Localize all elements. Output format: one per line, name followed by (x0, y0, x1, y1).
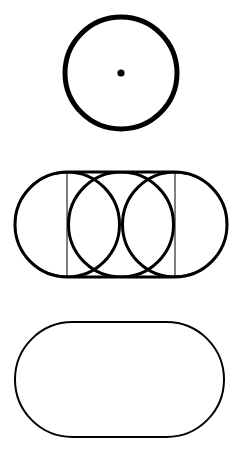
inner-circles-group (15, 172, 228, 277)
center-point-dot (117, 69, 124, 76)
figure-stadium-with-three-circles (15, 172, 228, 277)
diagram-canvas (0, 0, 241, 455)
figure-stadium-outline (15, 322, 224, 437)
shapes-svg (0, 0, 241, 455)
figure-circle-with-center-dot (65, 17, 177, 129)
stadium-outline-bottom (15, 322, 224, 437)
